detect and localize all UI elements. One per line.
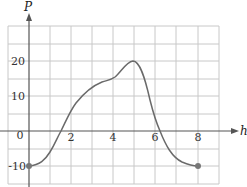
x-axis-arrow-icon <box>231 128 239 134</box>
grid <box>8 26 219 184</box>
chart: P h 0 2 4 6 8 20 10 -10 <box>0 0 247 187</box>
x-tick-2: 2 <box>68 131 75 144</box>
origin-label: 0 <box>17 129 24 142</box>
end-point <box>195 163 201 169</box>
y-tick-20: 20 <box>11 55 25 68</box>
x-axis-label: h <box>240 124 247 138</box>
y-tick-10: 10 <box>11 90 25 103</box>
x-tick-4: 4 <box>110 131 117 144</box>
x-tick-6: 6 <box>152 131 159 144</box>
y-tick-neg10: -10 <box>8 160 26 173</box>
y-axis-label: P <box>23 0 33 14</box>
y-axis-arrow-icon <box>26 13 32 21</box>
start-point <box>26 163 32 169</box>
x-tick-8: 8 <box>195 131 202 144</box>
